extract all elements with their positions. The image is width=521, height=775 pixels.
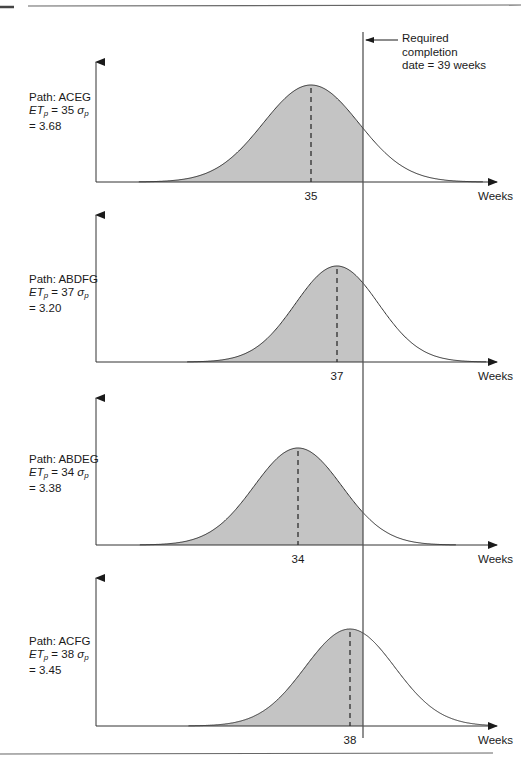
et-value: = 38 bbox=[51, 648, 74, 660]
et-sigma-line: ETp = 37 σp bbox=[29, 286, 98, 303]
panel-2-label: Path: ABDFG ETp = 37 σp = 3.20 bbox=[29, 273, 98, 315]
et-value: = 35 bbox=[51, 104, 74, 116]
path-name: Path: ABDEG bbox=[29, 453, 99, 466]
et-value: = 34 bbox=[51, 466, 74, 478]
bottom-rule bbox=[0, 753, 493, 754]
mean-label-2: 37 bbox=[331, 370, 344, 382]
et-sigma-line: ETp = 34 σp bbox=[29, 466, 99, 483]
panel-3-label: Path: ABDEG ETp = 34 σp = 3.38 bbox=[29, 453, 99, 495]
mean-label-3: 34 bbox=[292, 553, 305, 565]
callout-line-1: Required bbox=[402, 32, 486, 46]
et-sigma-line: ETp = 38 σp bbox=[29, 648, 90, 665]
x-axis-label-2: Weeks bbox=[478, 370, 513, 382]
mean-label-1: 35 bbox=[305, 190, 318, 202]
x-axis-label-1: Weeks bbox=[478, 190, 513, 202]
path-name: Path: ACEG bbox=[29, 91, 91, 104]
sigma-value: = 3.20 bbox=[29, 302, 98, 315]
x-axis-label-3: Weeks bbox=[478, 553, 513, 565]
panel-1 bbox=[96, 62, 497, 182]
callout-arrowhead-icon bbox=[365, 37, 374, 43]
et-value: = 37 bbox=[51, 286, 74, 298]
shaded-probability-area bbox=[189, 629, 364, 726]
panel-3 bbox=[96, 398, 497, 545]
sigma-value: = 3.38 bbox=[29, 482, 99, 495]
shaded-probability-area bbox=[140, 448, 363, 545]
x-axis-label-4: Weeks bbox=[478, 734, 513, 746]
et-sigma-line: ETp = 35 σp bbox=[29, 104, 91, 121]
sigma-value: = 3.68 bbox=[29, 120, 91, 133]
shaded-probability-area bbox=[139, 85, 363, 182]
path-name: Path: ABDFG bbox=[29, 273, 98, 286]
callout-line-3: date = 39 weeks bbox=[402, 59, 486, 73]
mean-label-4: 38 bbox=[344, 734, 357, 746]
callout-line-2: completion bbox=[402, 46, 486, 60]
panel-4-label: Path: ACFG ETp = 38 σp = 3.45 bbox=[29, 635, 90, 677]
panel-2 bbox=[96, 215, 497, 362]
sigma-value: = 3.45 bbox=[29, 664, 90, 677]
top-rule bbox=[28, 5, 521, 6]
panel-4 bbox=[96, 578, 497, 726]
panel-1-label: Path: ACEG ETp = 35 σp = 3.68 bbox=[29, 91, 91, 133]
path-name: Path: ACFG bbox=[29, 635, 90, 648]
required-date-callout: Required completion date = 39 weeks bbox=[402, 32, 486, 73]
